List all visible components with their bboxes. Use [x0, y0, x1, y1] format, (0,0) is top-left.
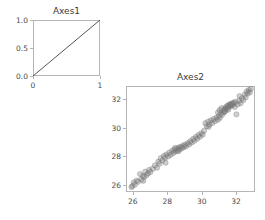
axes2-plot-area — [126, 86, 255, 192]
axes2-xtick-label: 26 — [128, 197, 138, 206]
axes2-scatter-point — [226, 107, 231, 112]
axes1-ytick-label: 0.0 — [16, 72, 28, 81]
axes1-line-series — [33, 20, 100, 76]
axes1-xtick-mark — [33, 76, 34, 79]
axes2-scatter-point — [163, 160, 168, 165]
axes2-xtick-label: 32 — [231, 197, 241, 206]
axes1-ytick-label: 0.5 — [16, 44, 28, 53]
axes2-scatter-point — [141, 178, 146, 183]
axes1-ytick-label: 1.0 — [16, 16, 28, 25]
axes2-scatter-point — [172, 145, 177, 150]
axes2-ytick-label: 32 — [111, 94, 121, 103]
axes2-panel: Axes2 2628303226283032 — [126, 86, 255, 192]
axes2-ytick-label: 28 — [111, 152, 121, 161]
axes2-xtick-label: 30 — [197, 197, 207, 206]
axes2-scatter-point — [248, 86, 253, 91]
axes2-xtick-mark — [167, 192, 168, 195]
axes2-ytick-mark — [123, 185, 126, 186]
axes2-scatter-point — [234, 112, 239, 117]
axes1-xtick-label: 1 — [98, 81, 103, 90]
axes2-ytick-mark — [123, 156, 126, 157]
axes2-xtick-label: 28 — [162, 197, 172, 206]
axes2-scatter-point — [237, 93, 242, 98]
axes2-scatter-point — [206, 124, 211, 129]
axes1-xtick-label: 0 — [31, 81, 36, 90]
axes2-xtick-mark — [236, 192, 237, 195]
axes1-plot-area — [33, 20, 100, 76]
axes1-panel: Axes1 0.00.51.001 — [33, 20, 100, 76]
axes2-ytick-label: 30 — [111, 123, 121, 132]
matplotlib-figure: Axes1 0.00.51.001 Axes2 2628303226283032 — [0, 0, 265, 220]
axes1-xtick-mark — [100, 76, 101, 79]
axes2-ytick-label: 26 — [111, 180, 121, 189]
axes1-ytick-mark — [30, 48, 33, 49]
axes2-title: Axes2 — [126, 72, 255, 82]
axes2-ytick-mark — [123, 99, 126, 100]
axes2-xtick-mark — [133, 192, 134, 195]
axes2-ytick-mark — [123, 128, 126, 129]
axes2-xtick-mark — [202, 192, 203, 195]
axes2-scatter-point — [217, 107, 222, 112]
axes1-title: Axes1 — [33, 6, 100, 16]
axes1-ytick-mark — [30, 20, 33, 21]
